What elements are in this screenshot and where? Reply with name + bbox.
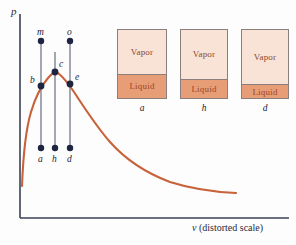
vessel-h-liquid-label: Liquid xyxy=(191,84,216,94)
vessel-d-vapor-label: Vapor xyxy=(254,52,277,62)
vessel-d-caption: d xyxy=(241,103,289,113)
vessel-a-liquid-region: Liquid xyxy=(118,74,166,98)
vessel-a-liquid-label: Liquid xyxy=(129,81,154,91)
point-label-h: h xyxy=(52,154,57,164)
point-dot-m xyxy=(38,38,44,44)
point-dot-a xyxy=(38,145,44,151)
point-label-b: b xyxy=(30,75,35,85)
point-dot-h xyxy=(52,145,58,151)
vessel-a-caption: a xyxy=(117,103,167,113)
y-axis-label: p xyxy=(11,5,17,17)
point-label-e: e xyxy=(75,72,79,82)
x-axis-caption-rest: (distorted scale) xyxy=(196,222,263,233)
pv-isotherm-figure: p v (distorted scale) m o c b e a h d Va… xyxy=(0,0,296,245)
point-dot-b xyxy=(38,83,45,90)
point-dot-o xyxy=(67,38,73,44)
vessel-h-vapor-label: Vapor xyxy=(193,49,216,59)
vessel-d: Vapor Liquid xyxy=(241,29,289,99)
point-label-c: c xyxy=(59,59,63,69)
point-dot-e xyxy=(67,81,74,88)
x-axis-caption: v (distorted scale) xyxy=(192,222,263,233)
vessel-a: Vapor Liquid xyxy=(117,29,167,99)
vessel-h-vapor-region: Vapor xyxy=(181,30,227,79)
vessel-d-liquid-region: Liquid xyxy=(242,84,288,98)
vessel-a-vapor-region: Vapor xyxy=(118,30,166,74)
vessel-h-caption: h xyxy=(180,103,228,113)
vessel-d-vapor-region: Vapor xyxy=(242,30,288,84)
vessel-d-liquid-label: Liquid xyxy=(252,87,277,97)
vessel-h-liquid-region: Liquid xyxy=(181,79,227,98)
point-label-d: d xyxy=(67,154,72,164)
point-label-m: m xyxy=(37,27,44,37)
point-label-o: o xyxy=(67,27,72,37)
point-dot-c xyxy=(52,69,59,76)
point-dot-d xyxy=(67,145,73,151)
point-label-a: a xyxy=(38,154,43,164)
vessel-h: Vapor Liquid xyxy=(180,29,228,99)
vessel-a-vapor-label: Vapor xyxy=(131,47,154,57)
